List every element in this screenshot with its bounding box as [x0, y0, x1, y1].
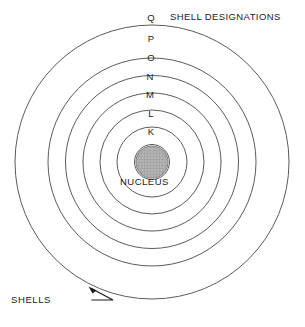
shell-letter-n: N: [144, 72, 156, 82]
shell-letter-m: M: [144, 90, 156, 100]
nucleus-label: NUCLEUS: [120, 177, 169, 187]
diagram-canvas: [0, 0, 305, 327]
shell-letter-o: O: [145, 53, 157, 63]
nucleus-circle: [136, 146, 168, 178]
shell-designations-title: SHELL DESIGNATIONS: [170, 12, 281, 22]
shell-letter-l: L: [145, 109, 157, 119]
shells-label: SHELLS: [11, 295, 51, 305]
shell-letter-p: P: [145, 34, 157, 44]
shell-letter-k: K: [145, 127, 157, 137]
shell-letter-q: Q: [145, 13, 157, 23]
atom-shell-diagram: SHELL DESIGNATIONS Q P O N M L K NUCLEUS…: [0, 0, 305, 327]
